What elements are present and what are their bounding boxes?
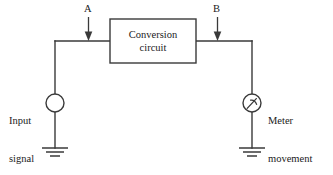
meter-movement-label-line1: Meter bbox=[268, 115, 312, 128]
block-label-line1: Conversion bbox=[129, 28, 177, 41]
test-point-a-arrow bbox=[85, 17, 93, 41]
meter-movement-label-line2: movement bbox=[268, 153, 312, 166]
input-signal-label: Input signal bbox=[9, 90, 34, 175]
ground-symbol-right bbox=[239, 148, 265, 156]
input-signal-label-line1: Input bbox=[9, 115, 34, 128]
test-point-b-label: B bbox=[213, 3, 220, 16]
ground-symbol-left bbox=[42, 148, 68, 156]
meter-movement-label: Meter movement bbox=[268, 90, 312, 175]
meter-movement-symbol bbox=[243, 94, 261, 112]
test-point-a-label: A bbox=[84, 3, 92, 16]
conversion-circuit-label: Conversion circuit bbox=[110, 19, 196, 63]
block-label-line2: circuit bbox=[140, 41, 167, 54]
test-point-b-arrow bbox=[214, 17, 222, 41]
circuit-diagram: Conversion circuit A B Input signal Mete… bbox=[0, 0, 333, 175]
input-signal-label-line2: signal bbox=[9, 153, 34, 166]
input-signal-source-symbol bbox=[46, 94, 64, 112]
